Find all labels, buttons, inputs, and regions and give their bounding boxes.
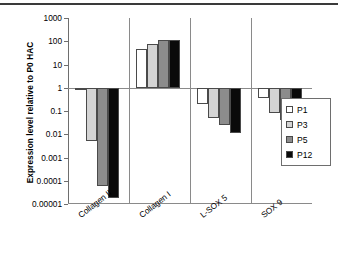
bar-collagen-ii-p5 [97, 88, 108, 186]
bar-l-sox-5-p5 [219, 88, 230, 125]
y-tick-mark [64, 158, 68, 159]
bar-l-sox-5-p3 [208, 88, 219, 118]
plot-area: 10001001010.10.010.0010.00010.00001 [68, 18, 312, 204]
y-tick-mark [64, 65, 68, 66]
legend-swatch-icon [286, 121, 293, 128]
y-tick-label: 0.01 [46, 129, 62, 139]
bar-collagen-ii-p3 [86, 88, 97, 141]
bar-sox-9-p3 [269, 88, 280, 114]
legend-swatch-icon [286, 136, 293, 143]
y-tick-mark [64, 181, 68, 182]
top-rule [0, 3, 338, 5]
bar-collagen-i-p5 [158, 40, 169, 87]
y-axis-line [68, 18, 69, 204]
y-tick-mark [64, 41, 68, 42]
bar-collagen-ii-p1 [75, 88, 86, 90]
legend-label: P12 [297, 150, 312, 160]
legend-label: P1 [297, 105, 308, 115]
bar-collagen-i-p3 [147, 44, 158, 88]
y-tick-mark [64, 204, 68, 205]
bar-collagen-ii-p12 [108, 88, 119, 198]
legend-swatch-icon [286, 151, 293, 158]
y-tick-label: 0.001 [41, 153, 62, 163]
legend-item-p5[interactable]: P5 [286, 132, 328, 147]
bar-sox-9-p1 [258, 88, 269, 99]
y-tick-mark [64, 134, 68, 135]
group-separator [190, 18, 191, 204]
group-separator [251, 18, 252, 204]
group-separator [129, 18, 130, 204]
y-tick-label: 0.00001 [32, 199, 62, 209]
y-axis-title: Expression level relative to P0 HAC [26, 23, 35, 203]
y-tick-mark [64, 111, 68, 112]
y-tick-label: 1 [57, 83, 62, 93]
y-tick-mark [64, 18, 68, 19]
y-tick-label: 100 [48, 36, 62, 46]
y-tick-label: 0.1 [50, 106, 62, 116]
figure-container: Expression level relative to P0 HAC 1000… [0, 0, 338, 275]
legend-item-p3[interactable]: P3 [286, 117, 328, 132]
y-tick-label: 10 [53, 60, 62, 70]
legend-label: P3 [297, 120, 308, 130]
legend: P1P3P5P12 [281, 98, 331, 166]
bar-collagen-i-p12 [169, 40, 180, 88]
legend-item-p1[interactable]: P1 [286, 102, 328, 117]
bar-l-sox-5-p1 [197, 88, 208, 104]
bar-collagen-i-p1 [136, 49, 147, 87]
legend-item-p12[interactable]: P12 [286, 147, 328, 162]
y-tick-label: 1000 [44, 13, 62, 23]
legend-label: P5 [297, 135, 308, 145]
y-tick-label: 0.0001 [37, 176, 62, 186]
legend-swatch-icon [286, 106, 293, 113]
bar-l-sox-5-p12 [230, 88, 241, 134]
